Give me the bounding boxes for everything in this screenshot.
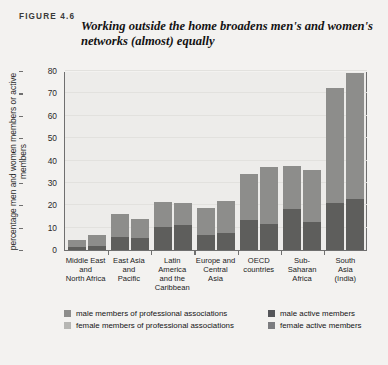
bar-segment-professional [240, 174, 258, 220]
y-axis-tick-label: 50 [23, 133, 64, 143]
legend-item[interactable]: female members of professional associati… [64, 320, 264, 333]
figure-title-block: FIGURE 4.6 Working outside the home broa… [19, 12, 374, 49]
x-axis-label-line: Sub-Saharan [288, 256, 317, 274]
x-axis-category-label: Europe andCentralAsia [194, 256, 237, 292]
x-axis-label-line: Europe and [196, 256, 235, 265]
legend-swatch-icon [268, 310, 275, 317]
x-axis-label-line: North Africa [66, 274, 106, 283]
bar-segment-professional [68, 240, 86, 247]
legend-label: male members of professional association… [76, 309, 227, 318]
bar-segment-professional [197, 208, 215, 236]
y-axis-tick-mark [19, 183, 24, 184]
bar-segment-active [88, 246, 106, 250]
bar-segment-professional [326, 88, 344, 203]
bar-segment-professional [111, 214, 129, 237]
bars-layer [65, 72, 367, 250]
bar-segment-active [68, 247, 86, 250]
bar-segment-professional [346, 73, 364, 199]
y-axis-tick-mark [19, 228, 24, 229]
x-axis-label-line: East Asia [113, 256, 145, 265]
bar-female [88, 235, 106, 250]
gridline [65, 70, 367, 71]
bar-segment-active [283, 209, 301, 250]
x-axis-label-line: and [123, 265, 136, 274]
bar-female [131, 219, 149, 250]
x-axis-label-line: and the [160, 274, 185, 283]
x-axis-label-line: Caribbean [155, 283, 190, 292]
plot-area: 01020304050607080 [64, 72, 367, 251]
bar-segment-professional [174, 203, 192, 225]
x-axis-label-line: Africa [292, 274, 311, 283]
bar-segment-active [240, 220, 258, 250]
bar-group [194, 72, 237, 250]
x-axis-label-line: Asia [208, 274, 223, 283]
legend-item[interactable]: male active members [268, 307, 374, 320]
x-axis-label-line: America [158, 265, 186, 274]
legend-swatch-icon [64, 322, 71, 329]
x-axis-category-label: LatinAmericaand theCaribbean [151, 256, 194, 292]
bar-segment-professional [283, 166, 301, 209]
legend-item[interactable]: female active members [268, 320, 374, 333]
bar-segment-professional [303, 170, 321, 221]
bar-male [326, 88, 344, 250]
y-axis-tick-label: 10 [23, 223, 64, 233]
x-axis-label-line: Central [203, 265, 227, 274]
y-axis-tick-mark [19, 250, 24, 251]
x-axis-label-line: Middle East [66, 256, 106, 265]
x-axis-category-label: Sub-SaharanAfrica [280, 256, 323, 292]
legend-swatch-icon [64, 310, 71, 317]
plot-wrapper: 01020304050607080 [64, 72, 367, 251]
figure-number: FIGURE 4.6 [19, 12, 75, 21]
bar-segment-professional [131, 219, 149, 238]
bar-male [240, 174, 258, 250]
y-axis-tick-label: 0 [23, 245, 64, 255]
bar-male [283, 166, 301, 250]
x-axis-label-line: South [335, 256, 355, 265]
x-axis-label-line: Pacific [118, 274, 140, 283]
bar-female [217, 201, 235, 250]
y-axis-tick-label: 60 [23, 111, 64, 121]
x-axis-label-line: and [79, 265, 92, 274]
bar-segment-active [326, 203, 344, 250]
bar-male [154, 202, 172, 250]
y-axis-tick-mark [19, 93, 24, 94]
bar-segment-active [217, 233, 235, 250]
y-axis-tick-label: 30 [23, 178, 64, 188]
x-axis-label-line: (India) [335, 274, 357, 283]
y-axis-tick-label: 80 [23, 66, 64, 76]
bar-segment-active [346, 199, 364, 250]
legend-swatch-icon [268, 322, 275, 329]
bar-segment-professional [88, 235, 106, 246]
legend-item[interactable]: male members of professional association… [64, 307, 264, 320]
bar-segment-active [111, 237, 129, 250]
bar-group [324, 72, 367, 250]
x-axis-label-line: OECD [248, 256, 270, 265]
y-axis-tick-mark [19, 71, 24, 72]
x-axis-category-label: SouthAsia(India) [324, 256, 367, 292]
bar-female [346, 73, 364, 250]
figure-container: FIGURE 4.6 Working outside the home broa… [0, 0, 388, 365]
legend-label: male active members [280, 309, 355, 318]
bar-male [68, 240, 86, 250]
bar-segment-active [197, 235, 215, 250]
y-axis-tick-label: 70 [23, 88, 64, 98]
bar-segment-active [154, 227, 172, 250]
bar-group [151, 72, 194, 250]
bar-segment-active [303, 222, 321, 250]
x-axis-label-line: Latin [164, 256, 180, 265]
legend-label: female active members [280, 321, 362, 330]
y-axis-tick-label: 40 [23, 156, 64, 166]
bar-segment-professional [154, 202, 172, 227]
bar-segment-active [174, 225, 192, 250]
bar-group [281, 72, 324, 250]
x-axis-category-label: Middle EastandNorth Africa [64, 256, 107, 292]
bar-segment-professional [260, 167, 278, 224]
y-axis-tick-label: 20 [23, 200, 64, 210]
bar-segment-professional [217, 201, 235, 234]
bar-group [108, 72, 151, 250]
bar-group [65, 72, 108, 250]
x-axis-category-label: East AsiaandPacific [107, 256, 150, 292]
bar-group [238, 72, 281, 250]
x-axis-labels: Middle EastandNorth AfricaEast AsiaandPa… [64, 256, 367, 292]
y-axis-tick-mark [19, 205, 24, 206]
